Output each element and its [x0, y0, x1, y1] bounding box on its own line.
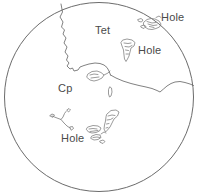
- hole-feature-lower-left-y: [50, 109, 74, 131]
- section-outline-circle: [5, 3, 194, 192]
- figure-canvas: [0, 0, 198, 195]
- grain-boundary-horizontal: [111, 75, 194, 92]
- grain-boundary-tet-cp: [60, 4, 111, 75]
- hole-feature-central: [87, 71, 110, 81]
- hole-feature-lower-center-lower: [87, 126, 107, 144]
- hole-feature-sliver: [109, 87, 113, 97]
- hole-feature-lower-center-upper: [104, 110, 119, 132]
- hole-feature-mid-right: [121, 39, 135, 62]
- mineral-grain-figure: Tet Cp Hole Hole Hole: [0, 0, 198, 195]
